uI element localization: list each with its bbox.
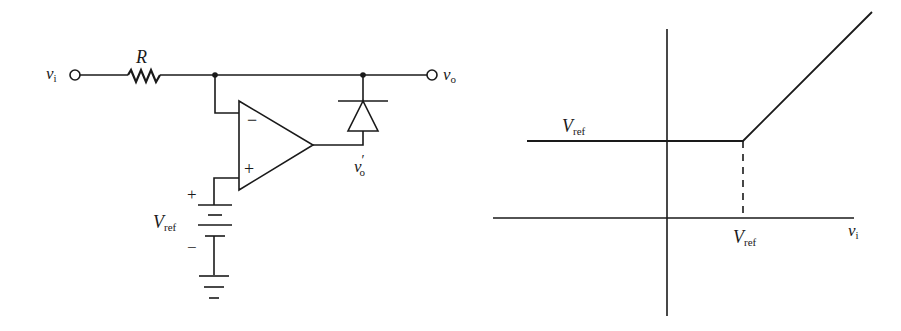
diode-icon xyxy=(338,75,388,131)
circuit-and-plot: vi R vo − + xyxy=(0,0,901,331)
input-label: vi xyxy=(46,64,57,84)
source-label: Vref xyxy=(153,212,177,233)
transfer-curve xyxy=(527,12,872,141)
source-minus: − xyxy=(187,238,197,257)
breakpoint-label: Vref xyxy=(733,227,757,248)
x-axis-label: vi xyxy=(848,221,859,241)
output-terminal xyxy=(427,70,437,80)
resistor-icon xyxy=(128,70,160,82)
level-label: Vref xyxy=(562,116,586,137)
resistor-label: R xyxy=(135,47,147,67)
transfer-characteristic-plot: Vref Vref vi xyxy=(493,12,872,316)
source-plus: + xyxy=(187,185,197,204)
opamp-plus: + xyxy=(244,159,254,179)
ground-icon xyxy=(199,276,229,298)
input-terminal xyxy=(70,70,80,80)
figure: vi R vo − + xyxy=(0,0,901,331)
opamp-output-label: v′o xyxy=(354,153,366,178)
battery-icon xyxy=(198,205,232,275)
circuit-diagram: vi R vo − + xyxy=(46,47,457,298)
output-label: vo xyxy=(443,65,457,85)
opamp-minus: − xyxy=(247,110,257,130)
